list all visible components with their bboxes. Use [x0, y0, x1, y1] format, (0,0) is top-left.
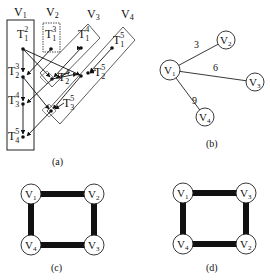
task-t2-4: T24	[58, 68, 69, 86]
task-t2-5: T25	[94, 63, 105, 81]
panel-a: V1 V2 V3 V4	[7, 5, 135, 168]
connector-diamond	[42, 104, 56, 117]
task-t3-4: T34	[8, 91, 19, 109]
task-t3-5: T35	[63, 94, 74, 112]
node-v3: V3	[246, 73, 264, 91]
caption-c: (c)	[51, 262, 62, 274]
figure: V1 V2 V3 V4	[0, 0, 270, 280]
node-v2: V2	[84, 184, 104, 204]
caption-a: (a)	[52, 156, 63, 168]
node-v1: V1	[160, 60, 180, 80]
group-v3-label: V3	[87, 7, 100, 22]
node-v1: V1	[173, 183, 193, 203]
weighted-edges	[170, 40, 255, 117]
panel-b: 3 6 9 V1 V2 V3 V4 (b)	[160, 31, 264, 150]
task-t2-3: T23	[8, 62, 19, 80]
node-v3: V3	[84, 235, 104, 255]
node-v1: V1	[21, 184, 41, 204]
edge-weight-v1-v4: 9	[192, 95, 197, 106]
node-v4: V4	[196, 108, 214, 126]
node-v3: V3	[236, 183, 256, 203]
task-t1-5: T15	[113, 31, 124, 49]
task-t1-2: T12	[17, 25, 28, 43]
task-t1-3: T13	[45, 25, 56, 43]
task-dependency-arrows	[23, 48, 112, 136]
panel-c: V1 V2 V3 V4 (c)	[21, 184, 104, 274]
task-t4-5: T45	[8, 127, 19, 145]
group-v2-label: V2	[46, 5, 59, 20]
edge-weight-v1-v3: 6	[213, 62, 218, 73]
thick-cycle-edges	[183, 193, 246, 244]
node-v4: V4	[173, 234, 193, 254]
panel-d: V1 V3 V2 V4 (d)	[173, 183, 256, 274]
node-v4: V4	[21, 235, 41, 255]
caption-b: (b)	[206, 138, 218, 150]
group-v1-label: V1	[14, 5, 27, 20]
node-v2: V2	[236, 234, 256, 254]
thick-cycle-edges	[31, 194, 94, 245]
caption-d: (d)	[206, 262, 218, 274]
edge-weight-v1-v2: 3	[194, 39, 199, 50]
task-t1-4: T14	[78, 25, 89, 43]
group-v4-label: V4	[121, 7, 134, 22]
node-v2: V2	[217, 31, 235, 49]
